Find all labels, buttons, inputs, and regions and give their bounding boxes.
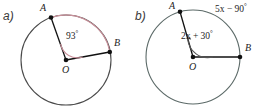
panel-a-degree-symbol: ° bbox=[76, 29, 79, 37]
vertex-b-b bbox=[238, 55, 243, 60]
panel-b-angle-label: 2x + 30° bbox=[181, 29, 213, 41]
vertex-o-b bbox=[191, 55, 196, 60]
panel-b-label-a: A bbox=[169, 0, 175, 11]
vertex-b-a bbox=[108, 50, 113, 55]
geometry-figure: a) A B O 93° b) A B O bbox=[0, 0, 266, 109]
panel-b-angle-expression: 2x + 30 bbox=[181, 31, 210, 41]
radius-ob-a bbox=[66, 52, 110, 60]
panel-b-arc-degree-symbol: ° bbox=[244, 2, 247, 10]
panel-a-label-a: A bbox=[40, 2, 46, 13]
panel-b-tag: b) bbox=[135, 9, 146, 23]
panel-a-circle-diagram: a) A B O 93° bbox=[0, 0, 133, 109]
panel-b-circle-diagram: b) A B O 2x + 30° 5x − 90° bbox=[133, 0, 266, 109]
panel-b-drawing bbox=[133, 0, 266, 109]
vertex-a-b bbox=[178, 10, 183, 15]
panel-b-arc-label: 5x − 90° bbox=[215, 2, 247, 14]
panel-a-angle-value: 93 bbox=[66, 31, 76, 41]
vertex-a-a bbox=[49, 15, 54, 20]
panel-b-degree-symbol: ° bbox=[210, 29, 213, 37]
highlighted-arc-ab-a bbox=[51, 15, 110, 52]
panel-b-label-o: O bbox=[189, 61, 196, 72]
panel-a-tag: a) bbox=[3, 9, 14, 23]
vertex-o-a bbox=[64, 58, 69, 63]
panel-b-arc-expression: 5x − 90 bbox=[215, 4, 244, 14]
panel-b-label-b: B bbox=[245, 42, 251, 53]
panel-a-label-b: B bbox=[114, 37, 120, 48]
central-angle-arc-b bbox=[188, 39, 213, 58]
panel-a-label-o: O bbox=[62, 64, 69, 75]
panel-a-angle-label: 93° bbox=[66, 29, 78, 41]
panel-a-drawing bbox=[0, 0, 133, 109]
radius-oa-a bbox=[51, 18, 66, 61]
